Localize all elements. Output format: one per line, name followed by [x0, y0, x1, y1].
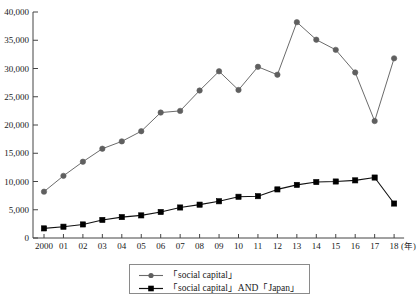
data-point-marker [61, 224, 66, 229]
y-axis-tick-label: 30,000 [4, 64, 29, 74]
data-point-marker [392, 201, 397, 206]
data-point-marker [158, 209, 163, 214]
legend-label-series-1: 「social capital」 [168, 270, 238, 281]
data-point-marker [100, 217, 105, 222]
y-axis-tick-label: 25,000 [4, 92, 29, 102]
data-point-marker [275, 187, 280, 192]
chart-container: 40,00035,00030,00025,00020,00015,00010,0… [0, 0, 419, 302]
data-point-marker [177, 108, 182, 113]
x-axis-tick-label: 11 [254, 241, 263, 251]
x-axis-tick-label: 13 [292, 241, 302, 251]
data-point-marker [119, 215, 124, 220]
data-point-marker [314, 179, 319, 184]
x-axis-tick-label: 15 [331, 241, 341, 251]
y-axis-tick-label: 35,000 [4, 35, 29, 45]
data-point-marker [61, 173, 66, 178]
data-point-marker [372, 175, 377, 180]
data-point-marker [197, 202, 202, 207]
legend-label-series-2: 「social capital」AND「Japan」 [168, 283, 300, 294]
data-point-marker [80, 159, 85, 164]
data-point-marker [353, 178, 358, 183]
x-axis-tick-label: 18 [390, 241, 400, 251]
x-axis-tick-label: 07 [176, 241, 186, 251]
legend-item: 「social capital」 [138, 269, 299, 282]
data-point-marker [158, 110, 163, 115]
data-point-marker [216, 199, 221, 204]
legend-item: 「social capital」AND「Japan」 [138, 282, 299, 295]
data-point-marker [119, 139, 124, 144]
x-axis-tick-label: 05 [137, 241, 147, 251]
data-point-marker [100, 146, 105, 151]
data-point-marker [236, 87, 241, 92]
chart-legend: 「social capital」 「social capital」AND「Jap… [129, 264, 310, 294]
x-axis-tick-label: 06 [156, 241, 166, 251]
y-axis-tick-label: 10,000 [4, 177, 29, 187]
legend-swatch-series-2 [138, 283, 164, 294]
x-axis-unit-label: (年) [401, 241, 416, 251]
y-axis-tick-label: 20,000 [4, 120, 29, 130]
data-point-marker [275, 72, 280, 77]
x-axis: 2000010203040506070809101112131415161718 [33, 234, 404, 251]
x-axis-tick-label: 14 [312, 241, 322, 251]
x-axis-tick-label: 16 [351, 241, 361, 251]
x-axis-tick-label: 12 [273, 241, 282, 251]
series-line [44, 22, 394, 192]
data-point-marker [80, 222, 85, 227]
x-axis-tick-label: 04 [117, 241, 127, 251]
x-axis-tick-label: 2000 [35, 241, 54, 251]
data-point-marker [314, 37, 319, 42]
data-point-marker [391, 56, 396, 61]
data-point-marker [294, 19, 299, 24]
data-point-marker [41, 189, 46, 194]
data-point-marker [178, 205, 183, 210]
data-point-marker [372, 118, 377, 123]
data-point-marker [255, 194, 260, 199]
data-point-marker [197, 88, 202, 93]
x-axis-tick-label: 09 [215, 241, 225, 251]
x-axis-tick-label: 01 [59, 241, 68, 251]
data-point-marker [353, 70, 358, 75]
y-axis-tick-label: 0 [25, 233, 30, 243]
x-axis-tick-label: 08 [195, 241, 205, 251]
data-point-marker [333, 179, 338, 184]
data-point-marker [333, 47, 338, 52]
y-axis: 40,00035,00030,00025,00020,00015,00010,0… [4, 7, 38, 243]
x-axis-tick-label: 03 [98, 241, 108, 251]
y-axis-tick-label: 5,000 [9, 205, 30, 215]
data-point-marker [216, 69, 221, 74]
x-axis-tick-label: 17 [370, 241, 380, 251]
line-chart-plot: 40,00035,00030,00025,00020,00015,00010,0… [0, 0, 419, 302]
data-point-marker [255, 64, 260, 69]
legend-swatch-series-1 [138, 270, 164, 281]
data-point-marker [41, 226, 46, 231]
data-point-marker [139, 213, 144, 218]
data-point-marker [236, 194, 241, 199]
data-point-marker [139, 129, 144, 134]
y-axis-tick-label: 15,000 [4, 148, 29, 158]
data-series-group [41, 19, 397, 231]
x-axis-tick-label: 02 [78, 241, 87, 251]
y-axis-tick-label: 40,000 [4, 7, 29, 17]
data-point-marker [294, 182, 299, 187]
x-axis-tick-label: 10 [234, 241, 244, 251]
